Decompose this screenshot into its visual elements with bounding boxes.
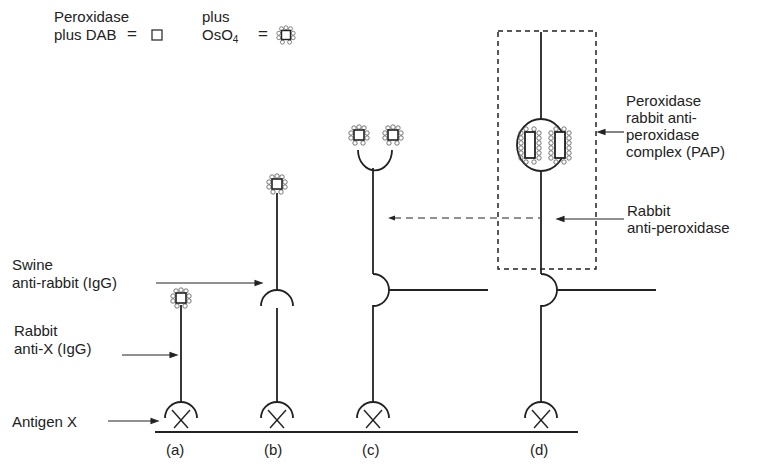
panel-b-secondary-arms xyxy=(261,290,293,306)
immunostaining-diagram xyxy=(0,0,776,476)
legend-open-square-icon xyxy=(152,30,162,40)
pap-complex-box xyxy=(498,31,596,269)
